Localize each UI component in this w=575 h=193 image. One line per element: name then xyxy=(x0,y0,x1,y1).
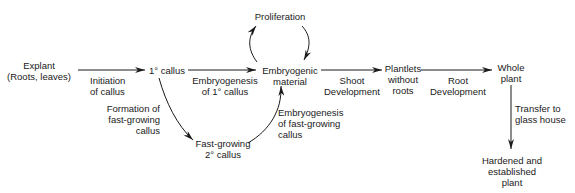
node-whole-plant: Whole plant xyxy=(494,62,528,84)
arrow-embryogenic-to-proliferation xyxy=(250,26,257,62)
node-primary-callus: 1° callus xyxy=(147,65,187,76)
node-hardened-plant: Hardened and established plant xyxy=(480,155,544,188)
edge-label-embryogenesis-fast-growing: Embryogenesis of fast-growing callus xyxy=(278,107,343,140)
edge-label-embryogenesis-primary: Embryogenesis of 1° callus xyxy=(190,75,260,97)
arrow-callus1-to-callus2 xyxy=(159,78,193,140)
node-embryogenic-material: Embryogenic material xyxy=(258,65,322,87)
arrow-proliferation-to-embryogenic xyxy=(302,26,309,60)
node-plantlets-without-roots: Plantlets without roots xyxy=(381,63,425,96)
edge-label-root-development: Root Development xyxy=(430,75,486,97)
edge-label-formation-fast-growing: Formation of fast-growing callus xyxy=(100,103,160,136)
node-secondary-callus: Fast-growing 2° callus xyxy=(193,138,253,160)
edge-label-initiation-of-callus: Initiation of callus xyxy=(90,75,125,97)
edge-label-transfer-glass-house: Transfer to glass house xyxy=(515,103,566,125)
node-explant: Explant (Roots, leaves) xyxy=(1,60,77,82)
edge-label-shoot-development: Shoot Development xyxy=(323,75,381,97)
node-proliferation: Proliferation xyxy=(247,11,313,22)
